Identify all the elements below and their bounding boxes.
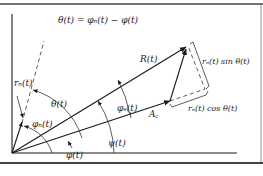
phi-label: φ(t) (66, 150, 83, 160)
carrier-amplitude-label: A꜀ (148, 109, 159, 119)
noise-length-arrow (17, 96, 23, 118)
theta-label: θ(t) (51, 99, 68, 109)
noise-amplitude-label: rₙ(t) (14, 78, 33, 88)
component-dashed-outline (170, 46, 205, 101)
psi-label: ψ(t) (108, 138, 126, 148)
sin-component-label: rₙ(t) sin θ(t) (202, 57, 250, 66)
phi-n-label: φₙ(t) (32, 119, 53, 129)
phi-pointer (68, 141, 72, 148)
cos-component-label: rₙ(t) cos θ(t) (188, 104, 237, 113)
resultant-label: R(t) (139, 54, 158, 64)
theta-arc (33, 90, 82, 138)
equation-label: θ(t) = φₙ(t) − φ(t) (58, 15, 139, 25)
noise-added-phasor-arrow (170, 49, 186, 101)
phi-e-label: φₑ(t) (117, 103, 138, 113)
resultant-phasor-arrow (12, 47, 186, 153)
phasor-diagram: θ(t) = φₙ(t) − φ(t) R(t) rₙ(t) θ(t) φₙ(t… (0, 0, 263, 176)
phi-n-arc (24, 126, 52, 153)
